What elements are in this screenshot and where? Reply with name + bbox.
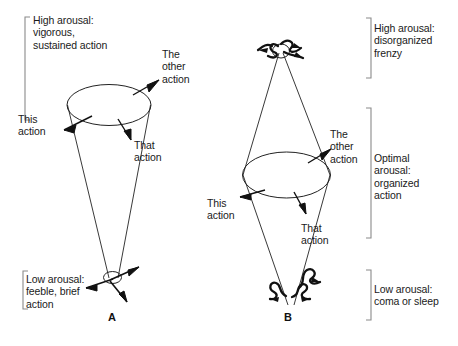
- cone-a-apex-arrows: [86, 267, 139, 302]
- arrow-b-this: [240, 190, 265, 200]
- panel-b-high-arousal-label: High arousal: disorganized frenzy: [374, 22, 435, 59]
- bracket-b-optimal: [366, 108, 371, 238]
- arrow-a-apex-down: [110, 281, 127, 302]
- cone-b-upper: [243, 53, 330, 175]
- panel-b-low-arousal-label: Low arousal: coma or sleep: [374, 283, 439, 308]
- figure-page: High arousal: vigorous, sustained action…: [0, 0, 458, 346]
- cone-a-top-arrows: [64, 80, 159, 140]
- bracket-a-high: [25, 17, 30, 120]
- cone-b-middle-ellipse: [243, 152, 331, 198]
- panel-b-letter: B: [284, 311, 292, 323]
- arrow-a-other: [133, 80, 159, 95]
- panel-a-high-arousal-label: High arousal: vigorous, sustained action: [33, 14, 107, 51]
- panel-b-graphic: [240, 18, 371, 320]
- panel-b-other-action-label: The other action: [330, 128, 357, 165]
- arrow-b-that: [294, 192, 306, 214]
- arrow-a-that: [118, 119, 131, 140]
- arrow-a-apex-right: [110, 267, 139, 280]
- panel-a-that-action-label: That action: [134, 139, 161, 164]
- panel-a-low-arousal-label: Low arousal: feeble, brief action: [26, 273, 84, 310]
- panel-b-optimal-arousal-label: Optimal arousal: organized action: [374, 152, 419, 202]
- panel-b-that-action-label: That action: [301, 222, 328, 247]
- panel-a-this-action-label: This action: [18, 113, 45, 138]
- panel-b-this-action-label: This action: [207, 197, 234, 222]
- squiggle-b-bottom-right: [299, 269, 320, 288]
- panel-a-other-action-label: The other action: [162, 48, 189, 85]
- panel-a-letter: A: [108, 311, 116, 323]
- bracket-b-low: [366, 270, 371, 320]
- squiggle-b-top-right: [281, 41, 301, 52]
- cone-a-top-ellipse: [67, 85, 151, 126]
- bracket-b-high: [366, 18, 371, 78]
- cone-a-right-edge: [118, 105, 151, 278]
- arrow-a-apex-left: [86, 279, 113, 291]
- cone-a-body: [68, 105, 151, 278]
- cone-b-frenzy-arrows: [258, 41, 303, 58]
